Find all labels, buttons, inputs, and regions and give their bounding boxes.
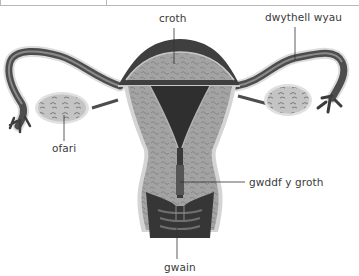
label-cervix: gwddf y groth — [249, 176, 323, 188]
label-fallopian-tube: dwythell wyau — [265, 11, 342, 23]
label-uterus: croth — [159, 12, 187, 24]
right-ovary — [238, 84, 312, 116]
label-ovary: ofari — [52, 142, 76, 154]
reproductive-system-illustration — [0, 0, 359, 276]
label-vagina: gwain — [164, 261, 196, 273]
left-ovary — [35, 92, 118, 124]
uterus — [118, 39, 240, 232]
